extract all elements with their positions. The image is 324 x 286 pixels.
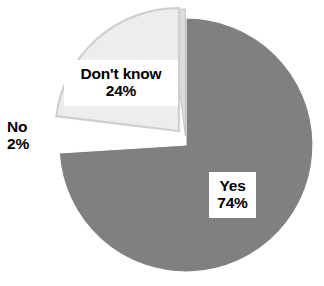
slice-label-no-name: No xyxy=(7,118,29,135)
slice-label-yes-percent: 74% xyxy=(209,194,256,211)
pie-chart: Don't know 24% No 2% Yes 74% xyxy=(0,0,324,286)
slice-label-no-percent: 2% xyxy=(7,135,29,152)
slice-label-dont-know: Don't know 24% xyxy=(64,60,178,106)
slice-label-dont-know-name: Don't know xyxy=(64,65,178,82)
pie-chart-svg xyxy=(0,0,324,286)
slice-label-yes: Yes 74% xyxy=(209,172,256,218)
slice-label-dont-know-percent: 24% xyxy=(64,82,178,99)
slice-label-no: No 2% xyxy=(7,118,29,153)
slice-label-yes-name: Yes xyxy=(209,177,256,194)
